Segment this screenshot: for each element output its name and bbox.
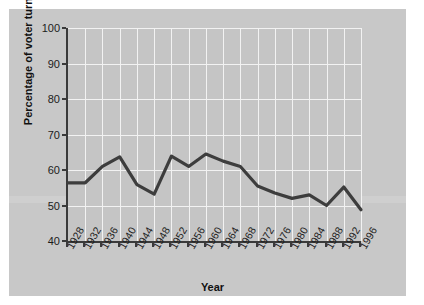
x-tick-mark <box>100 243 102 247</box>
x-tick-mark <box>204 243 206 247</box>
y-tick-label: 100 <box>30 22 60 34</box>
x-tick-mark <box>83 243 85 247</box>
x-tick-mark <box>307 243 309 247</box>
plot-area <box>66 28 361 243</box>
y-tick-mark <box>62 98 66 100</box>
y-tick-mark <box>62 169 66 171</box>
line-series <box>68 28 361 241</box>
y-axis-title: Percentage of voter turnout <box>22 0 34 143</box>
x-tick-mark <box>238 243 240 247</box>
y-tick-label: 70 <box>30 129 60 141</box>
x-tick-mark <box>118 243 120 247</box>
x-tick-mark <box>256 243 258 247</box>
y-tick-label: 60 <box>30 164 60 176</box>
y-tick-mark <box>62 134 66 136</box>
x-tick-mark <box>187 243 189 247</box>
y-tick-label: 80 <box>30 93 60 105</box>
x-tick-mark <box>221 243 223 247</box>
y-tick-label: 40 <box>30 235 60 247</box>
y-tick-mark <box>62 63 66 65</box>
y-tick-label: 90 <box>30 58 60 70</box>
x-tick-mark <box>290 243 292 247</box>
x-tick-mark <box>273 243 275 247</box>
x-axis-title: Year <box>66 281 359 293</box>
x-tick-mark <box>152 243 154 247</box>
x-tick-mark <box>342 243 344 247</box>
x-tick-mark <box>359 243 361 247</box>
y-tick-mark <box>62 205 66 207</box>
y-tick-label: 50 <box>30 200 60 212</box>
x-tick-mark <box>66 243 68 247</box>
x-tick-mark <box>169 243 171 247</box>
x-tick-mark <box>135 243 137 247</box>
x-tick-mark <box>325 243 327 247</box>
chart-figure: 405060708090100 192819321936194019441948… <box>0 0 424 305</box>
y-tick-mark <box>62 27 66 29</box>
